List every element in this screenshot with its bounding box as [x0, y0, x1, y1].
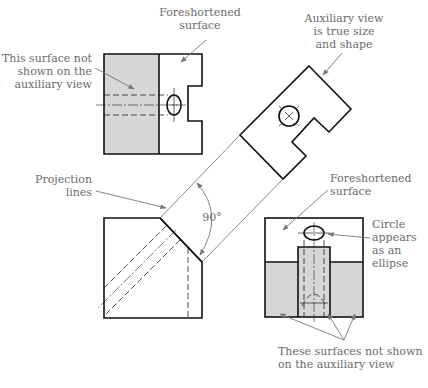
- tick: [296, 106, 299, 109]
- leader-arrow: [280, 314, 344, 340]
- svg-text:lines: lines: [66, 186, 93, 199]
- auxiliary-view-outline: [240, 66, 351, 179]
- auxiliary-view-diagram: Foreshortened surface This surface not s…: [0, 0, 428, 388]
- svg-text:on the auxiliary view: on the auxiliary view: [278, 358, 395, 371]
- svg-text:Foreshortened: Foreshortened: [159, 6, 241, 19]
- svg-text:surface: surface: [330, 185, 371, 198]
- svg-text:is true size: is true size: [314, 25, 375, 38]
- front-view-outline: [104, 218, 202, 318]
- svg-text:and shape: and shape: [315, 38, 372, 51]
- projection-line: [160, 135, 240, 218]
- tick: [279, 106, 282, 109]
- svg-text:as an: as an: [372, 244, 401, 257]
- svg-text:Circle: Circle: [372, 218, 405, 231]
- side-view: [265, 218, 363, 322]
- svg-text:Projection: Projection: [35, 173, 92, 186]
- auxiliary-view: [240, 66, 351, 179]
- hidden-line: [106, 240, 180, 314]
- hidden-surface-shading: [104, 54, 159, 154]
- svg-text:Foreshortened: Foreshortened: [330, 172, 412, 185]
- label-not-shown-bottom: These surfaces not shown on the auxiliar…: [278, 314, 423, 371]
- leader-arrow: [328, 314, 344, 340]
- leader-arrow: [323, 53, 342, 75]
- angle-label: 90°: [202, 211, 222, 224]
- front-view: [98, 218, 202, 318]
- svg-text:This surface not: This surface not: [2, 52, 93, 65]
- tick: [279, 123, 282, 126]
- center-line: [98, 230, 176, 308]
- projection-line-ext: [240, 122, 252, 135]
- svg-text:appears: appears: [372, 231, 417, 244]
- top-view: [96, 54, 202, 154]
- svg-text:ellipse: ellipse: [372, 257, 408, 270]
- tick: [296, 123, 299, 126]
- svg-text:These surfaces not shown: These surfaces not shown: [278, 345, 423, 358]
- label-aux-true-size: Auxiliary view is true size and shape: [304, 12, 385, 75]
- svg-text:shown on the: shown on the: [17, 65, 92, 78]
- leader-arrow: [283, 190, 328, 230]
- label-projection-lines: Projection lines: [35, 173, 166, 208]
- leader-arrow: [344, 314, 355, 340]
- leader-arrow: [96, 191, 166, 208]
- svg-text:surface: surface: [179, 19, 220, 32]
- svg-text:auxiliary view: auxiliary view: [14, 78, 92, 91]
- hidden-line: [104, 226, 166, 288]
- svg-text:Auxiliary view: Auxiliary view: [304, 12, 385, 25]
